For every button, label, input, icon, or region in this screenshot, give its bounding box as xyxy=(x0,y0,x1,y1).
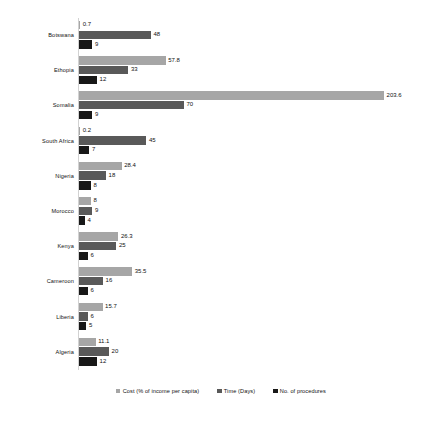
bar-1 xyxy=(79,31,151,39)
bar-2 xyxy=(79,76,97,84)
bar-stack: 35.5166 xyxy=(79,267,442,296)
bar-row: 203.6 xyxy=(79,91,442,99)
category-label: Algeria xyxy=(4,335,74,370)
bar-group: Morocco894 xyxy=(0,194,442,229)
bar-stack: 15.765 xyxy=(79,303,442,332)
bar-stack: 203.6709 xyxy=(79,91,442,120)
bar-row: 11.1 xyxy=(79,338,442,346)
legend-swatch-icon xyxy=(116,389,120,393)
bar-group: Somalia203.6709 xyxy=(0,88,442,123)
category-label: Nigeria xyxy=(4,159,74,194)
bar-row: 26.3 xyxy=(79,232,442,240)
bar-1 xyxy=(79,312,88,320)
bar-row: 12 xyxy=(79,357,442,365)
bar-row: 9 xyxy=(79,40,442,48)
bar-1 xyxy=(79,347,109,355)
bar-group: Liberia15.765 xyxy=(0,300,442,335)
bar-0 xyxy=(79,303,103,311)
bar-row: 0.2 xyxy=(79,127,442,135)
category-label: Ethopia xyxy=(4,53,74,88)
bar-value-label: 70 xyxy=(184,100,193,110)
bar-0 xyxy=(79,91,384,99)
legend-item[interactable]: Time (Days) xyxy=(217,388,255,394)
bar-group: Cameroon35.5166 xyxy=(0,264,442,299)
bar-value-label: 9 xyxy=(92,110,98,120)
bar-value-label: 6 xyxy=(88,312,94,322)
bar-stack: 0.7489 xyxy=(79,21,442,50)
category-label: Liberia xyxy=(4,300,74,335)
bar-0 xyxy=(79,56,166,64)
bar-value-label: 9 xyxy=(92,40,98,50)
bar-row: 15.7 xyxy=(79,303,442,311)
bar-value-label: 5 xyxy=(86,321,92,331)
bar-0 xyxy=(79,338,96,346)
bar-2 xyxy=(79,181,91,189)
bar-row: 6 xyxy=(79,252,442,260)
bar-group: Algeria11.12012 xyxy=(0,335,442,370)
bar-value-label: 35.5 xyxy=(132,267,146,277)
bar-row: 9 xyxy=(79,111,442,119)
bar-row: 7 xyxy=(79,146,442,154)
bar-0 xyxy=(79,232,118,240)
bar-2 xyxy=(79,322,86,330)
bar-2 xyxy=(79,146,89,154)
bar-row: 70 xyxy=(79,101,442,109)
bar-value-label: 0.2 xyxy=(80,126,91,136)
bar-value-label: 25 xyxy=(116,241,125,251)
bar-0 xyxy=(79,267,132,275)
bar-row: 6 xyxy=(79,287,442,295)
category-label: Cameroon xyxy=(4,264,74,299)
bar-row: 48 xyxy=(79,31,442,39)
category-label: Botswana xyxy=(4,18,74,53)
bar-row: 33 xyxy=(79,66,442,74)
bar-0 xyxy=(79,162,122,170)
legend-item[interactable]: Cost (% of income per capita) xyxy=(116,388,199,394)
bar-value-label: 26.3 xyxy=(118,232,132,242)
bar-chart: Botswana0.7489Ethopia57.83312Somalia203.… xyxy=(0,0,442,421)
bar-value-label: 6 xyxy=(88,251,94,261)
plot-area: Botswana0.7489Ethopia57.83312Somalia203.… xyxy=(0,8,442,376)
bar-stack: 894 xyxy=(79,197,442,226)
bar-value-label: 28.4 xyxy=(122,161,136,171)
bar-1 xyxy=(79,66,128,74)
bar-row: 16 xyxy=(79,277,442,285)
bar-value-label: 203.6 xyxy=(384,91,402,101)
category-label: Somalia xyxy=(4,88,74,123)
category-label: Kenya xyxy=(4,229,74,264)
bar-stack: 28.4188 xyxy=(79,162,442,191)
bar-value-label: 0.7 xyxy=(80,20,91,30)
bar-stack: 0.2457 xyxy=(79,127,442,156)
bar-value-label: 8 xyxy=(91,181,97,191)
bar-value-label: 57.8 xyxy=(166,56,180,66)
legend-swatch-icon xyxy=(217,389,221,393)
bar-2 xyxy=(79,40,92,48)
bar-row: 12 xyxy=(79,76,442,84)
bar-value-label: 33 xyxy=(128,65,137,75)
bar-2 xyxy=(79,111,92,119)
bar-value-label: 12 xyxy=(97,75,106,85)
legend-item[interactable]: No. of procedures xyxy=(273,388,326,394)
bar-value-label: 16 xyxy=(103,276,112,286)
bar-row: 57.8 xyxy=(79,56,442,64)
bar-row: 4 xyxy=(79,216,442,224)
bar-value-label: 4 xyxy=(85,216,91,226)
bar-row: 20 xyxy=(79,347,442,355)
bar-group: Nigeria28.4188 xyxy=(0,159,442,194)
bar-value-label: 8 xyxy=(91,196,97,206)
bar-2 xyxy=(79,252,88,260)
bar-2 xyxy=(79,357,97,365)
bar-row: 8 xyxy=(79,181,442,189)
bar-0 xyxy=(79,197,91,205)
bar-stack: 11.12012 xyxy=(79,338,442,367)
bar-1 xyxy=(79,136,146,144)
bar-group: Botswana0.7489 xyxy=(0,18,442,53)
bar-value-label: 45 xyxy=(146,136,155,146)
bar-value-label: 7 xyxy=(89,145,95,155)
bar-1 xyxy=(79,277,103,285)
bar-value-label: 6 xyxy=(88,286,94,296)
legend-label: No. of procedures xyxy=(280,388,326,394)
bar-row: 5 xyxy=(79,322,442,330)
bar-row: 9 xyxy=(79,207,442,215)
legend-label: Cost (% of income per capita) xyxy=(123,388,200,394)
bar-row: 8 xyxy=(79,197,442,205)
